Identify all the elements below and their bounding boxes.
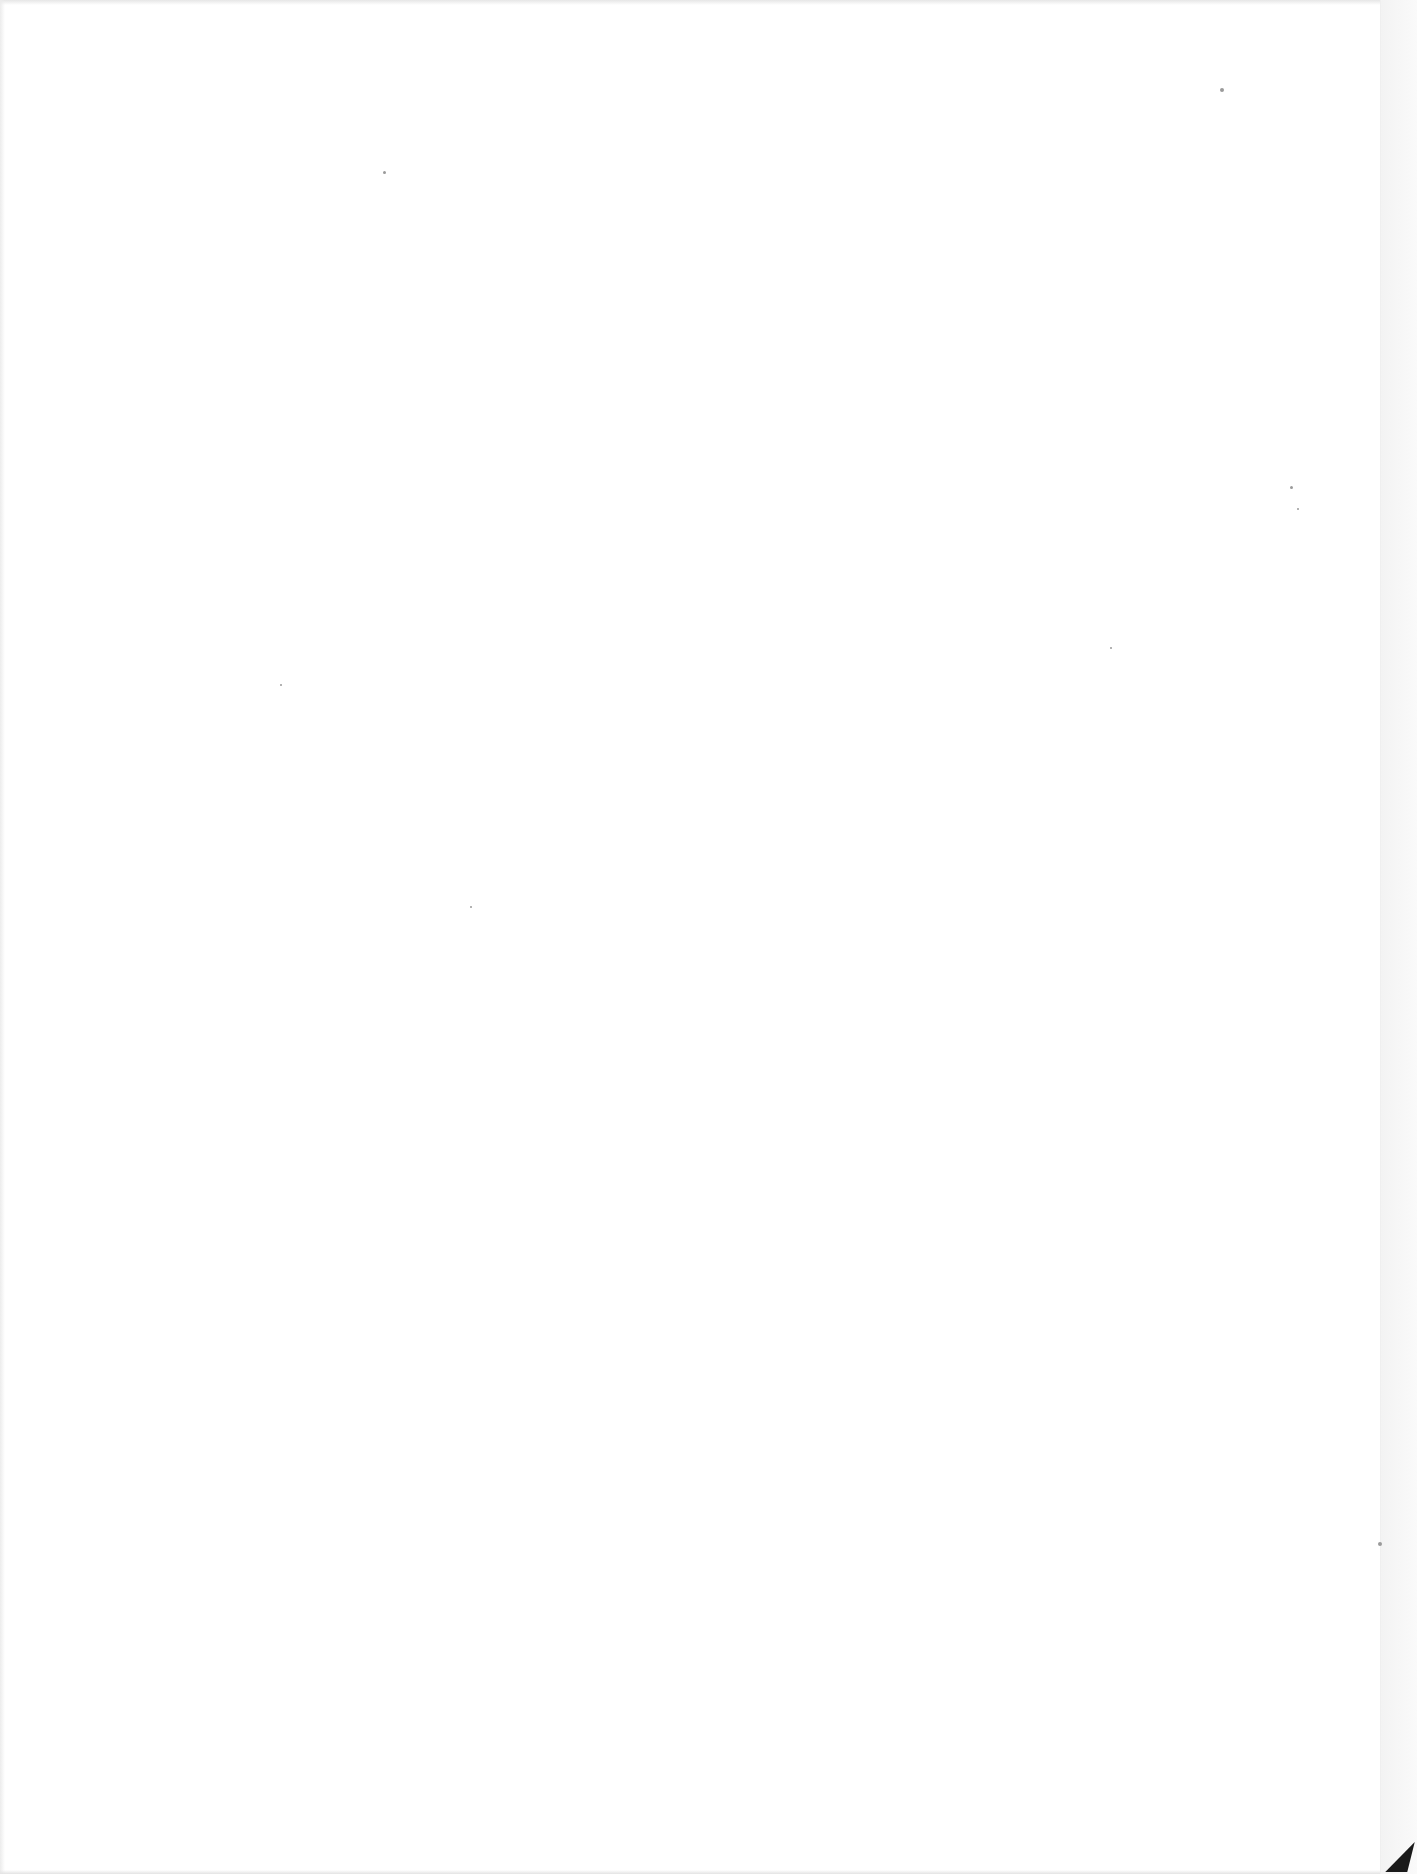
scan-speck xyxy=(1220,88,1224,92)
scan-speck xyxy=(1290,486,1293,489)
scan-edge-bottom xyxy=(0,1870,1395,1874)
scan-edge-top xyxy=(0,0,1390,5)
scan-edge-right xyxy=(1380,0,1417,1874)
scan-edge-left xyxy=(0,0,5,1874)
scan-speck xyxy=(1297,508,1299,510)
scan-speck xyxy=(383,171,386,174)
scanned-page xyxy=(0,0,1417,1874)
scan-speck xyxy=(1378,1542,1382,1546)
scan-speck xyxy=(1110,647,1112,649)
scan-speck xyxy=(470,906,472,908)
scan-speck xyxy=(280,684,282,686)
